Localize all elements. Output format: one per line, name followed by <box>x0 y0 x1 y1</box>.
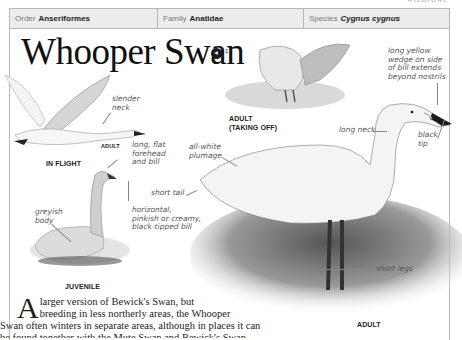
annotation-long-neck: long neck <box>339 126 375 135</box>
body-line-3: Swan often winters in separate areas, al… <box>0 320 260 332</box>
running-head: WILDFOWL <box>407 0 448 3</box>
body-line-1: larger version of Bewick's Swan, but <box>40 296 195 307</box>
leader-horizontal-bill <box>128 181 129 201</box>
annotation-all-white-plumage: all-whiteplumage <box>189 143 222 160</box>
dropcap: A <box>17 297 39 319</box>
species-label: Species <box>309 14 337 23</box>
taxon-family: Family Anatidae <box>158 9 304 28</box>
taxon-species: Species Cygnus cygnus <box>304 9 449 28</box>
adult-swan-illustration <box>180 95 455 325</box>
taxon-order: Order Anseriformes <box>10 9 158 28</box>
leader-yellow-wedge <box>437 83 438 105</box>
body-line-4: be found together with the Mute Swan and… <box>0 332 249 340</box>
caption-adult-taking-off: ADULT(TAKING OFF) <box>229 114 277 132</box>
annotation-long-flat-forehead: long, flatforeheadand bill <box>132 141 166 167</box>
leader-short-legs <box>320 269 375 270</box>
family-label: Family <box>163 14 187 23</box>
caption-juvenile: JUVENILE <box>65 282 100 291</box>
order-value: Anseriformes <box>38 14 90 23</box>
taxonomy-bar: Order Anseriformes Family Anatidae Speci… <box>9 8 450 29</box>
body-text: A larger version of Bewick's Swan, but b… <box>17 296 302 340</box>
caption-in-flight: IN FLIGHT <box>46 159 81 168</box>
annotation-yellow-wedge: long yellowwedge on sideof bill extendsb… <box>388 47 446 81</box>
body-line-2: breeding in less northerly areas, the Wh… <box>40 308 231 319</box>
annotation-short-tail: short tail <box>151 189 184 198</box>
annotation-horizontal-bill: horizontal,pinkish or creamy,black-tippe… <box>132 206 201 232</box>
species-value: Cygnus cygnus <box>340 14 400 23</box>
annotation-slender-neck: slenderneck <box>112 95 140 112</box>
annotation-black-tip: blacktip <box>418 131 438 148</box>
family-value: Anatidae <box>190 14 224 23</box>
caption-adult-main: ADULT <box>357 320 381 329</box>
caption-adult-small: ADULT <box>101 142 120 151</box>
annotation-short-legs: short legs <box>376 265 413 274</box>
annotation-greyish-body: greyishbody <box>35 208 63 225</box>
order-label: Order <box>15 14 35 23</box>
